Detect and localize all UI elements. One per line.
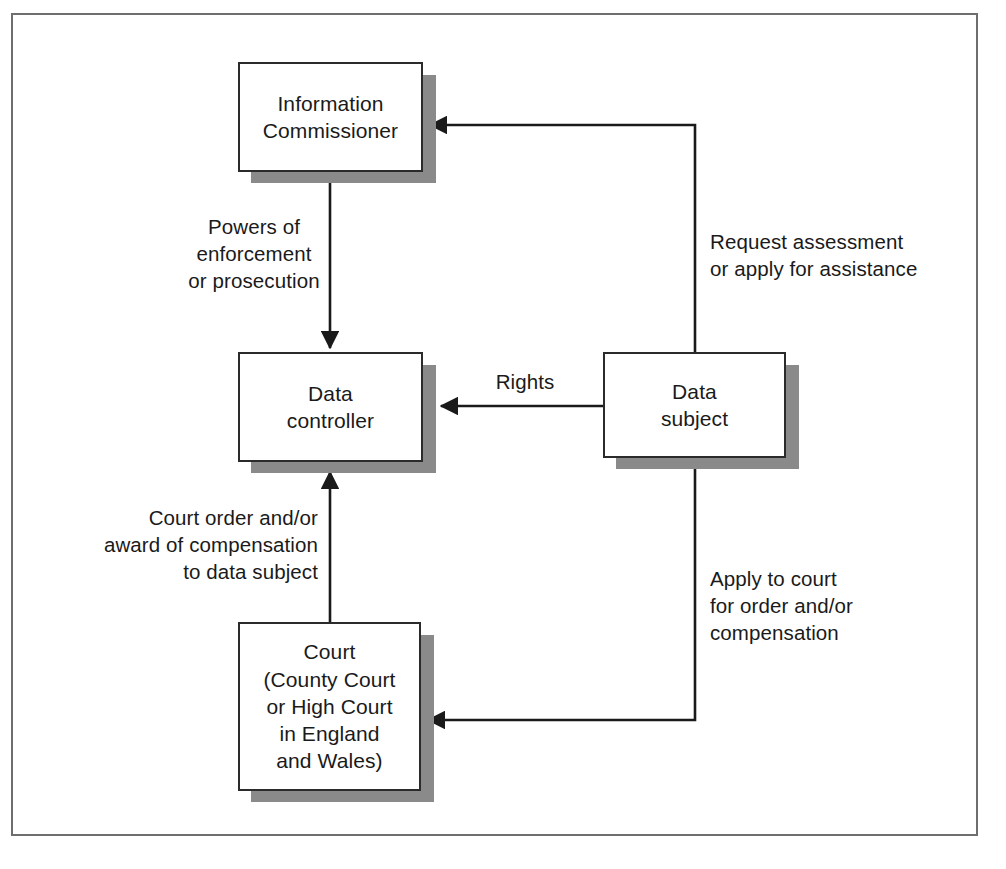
connector-request-assessment — [430, 125, 695, 352]
node-information-commissioner[interactable]: Information Commissioner — [238, 62, 423, 172]
node-label: Information Commissioner — [263, 90, 398, 145]
edge-label-powers-of-enforcement: Powers of enforcement or prosecution — [180, 213, 328, 294]
connector-apply-to-court — [428, 468, 695, 720]
edge-label-court-order: Court order and/or award of compensation… — [90, 504, 318, 585]
edge-label-rights: Rights — [470, 368, 580, 395]
edge-label-request-assessment: Request assessment or apply for assistan… — [710, 228, 980, 282]
edge-label-apply-to-court: Apply to court for order and/or compensa… — [710, 565, 940, 646]
node-court[interactable]: Court (County Court or High Court in Eng… — [238, 622, 421, 791]
node-label: Data controller — [287, 380, 374, 435]
node-data-controller[interactable]: Data controller — [238, 352, 423, 462]
connector-layer — [0, 0, 1006, 869]
node-label: Data subject — [661, 378, 728, 433]
diagram-page: Information Commissioner Data controller… — [0, 0, 1006, 869]
node-label: Court (County Court or High Court in Eng… — [263, 638, 395, 774]
node-data-subject[interactable]: Data subject — [603, 352, 786, 458]
